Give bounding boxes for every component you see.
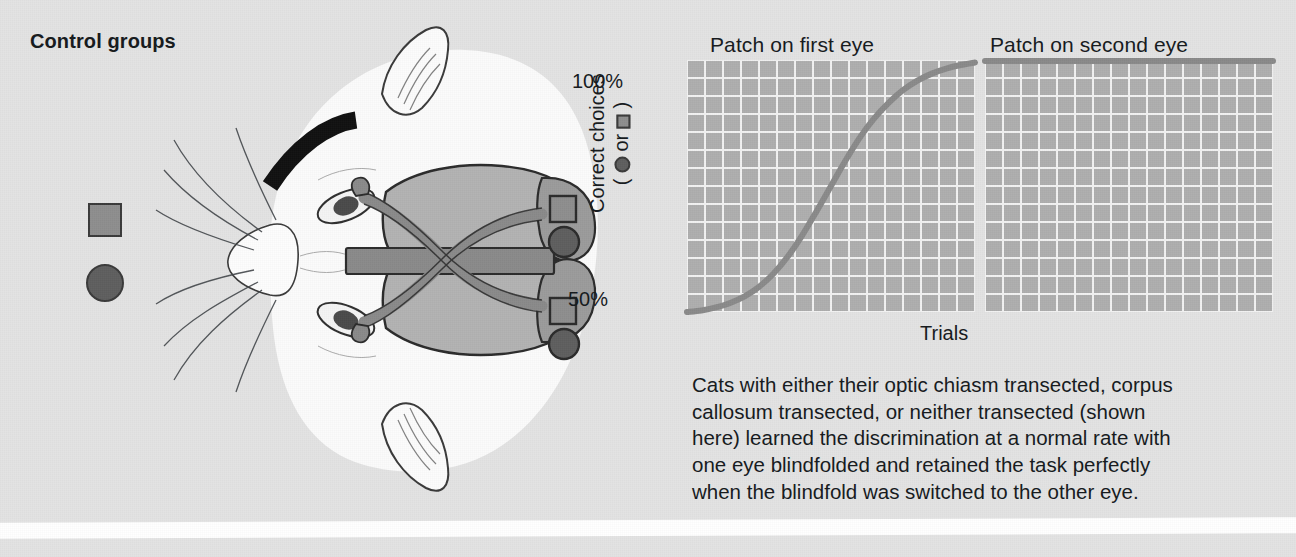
legend bbox=[88, 203, 124, 302]
caption-line: when the blindfold was switched to the o… bbox=[692, 479, 1222, 506]
learning-curve-line bbox=[687, 63, 975, 312]
caption-text: Cats with either their optic chiasm tran… bbox=[692, 372, 1222, 505]
retention-curve-svg bbox=[985, 60, 1273, 312]
y-axis-label-text: Correct choices bbox=[586, 74, 608, 213]
circle-symbol-icon bbox=[614, 157, 630, 173]
caption-line: callosum transected, or neither transect… bbox=[692, 399, 1222, 426]
legend-circle-symbol bbox=[86, 264, 124, 302]
caption-line: one eye blindfolded and retained the tas… bbox=[692, 452, 1222, 479]
chart-title-first-eye: Patch on first eye bbox=[710, 33, 874, 57]
caption-line: Cats with either their optic chiasm tran… bbox=[692, 372, 1222, 399]
legend-square-symbol bbox=[88, 203, 122, 237]
cortex-circle-first bbox=[549, 227, 579, 257]
y-axis-paren-open: ( bbox=[610, 179, 632, 186]
optic-nerve-stub-first bbox=[352, 178, 370, 196]
x-axis-label: Trials bbox=[920, 322, 968, 345]
chart-plot-first-eye bbox=[687, 60, 975, 312]
y-axis-paren-close: ) bbox=[610, 102, 632, 109]
figure-panel: Control groups bbox=[0, 0, 1296, 557]
optic-nerve-stub-second bbox=[352, 324, 370, 342]
cat-illustration-svg bbox=[150, 20, 620, 500]
cortex-circle-second bbox=[549, 329, 579, 359]
section-divider bbox=[0, 517, 1296, 539]
cat-head-brain-illustration bbox=[150, 20, 620, 500]
chart-plot-second-eye bbox=[985, 60, 1273, 312]
learning-curve-svg bbox=[687, 60, 975, 312]
square-symbol-icon bbox=[616, 114, 630, 128]
cortex-square-first bbox=[550, 196, 576, 222]
y-axis-or-text: or bbox=[610, 134, 632, 152]
cat-muzzle bbox=[228, 224, 298, 296]
chart-title-second-eye: Patch on second eye bbox=[990, 33, 1188, 57]
y-axis-tick-bottom: 50% bbox=[568, 288, 608, 311]
caption-line: here) learned the discrimination at a no… bbox=[692, 425, 1222, 452]
y-axis-label: Correct choices ( or ) bbox=[586, 29, 633, 259]
